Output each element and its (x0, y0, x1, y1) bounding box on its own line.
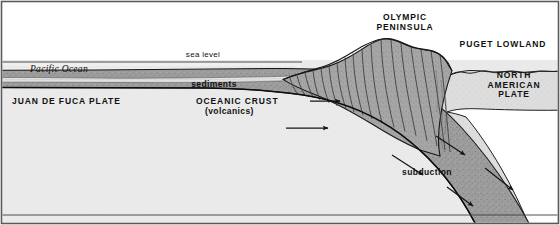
cross-section-figure: sea level Pacific Ocean sediments JUAN D… (0, 0, 560, 225)
cross-section-drawing (0, 0, 560, 225)
